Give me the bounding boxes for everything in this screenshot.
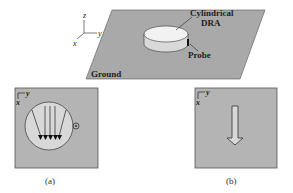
dra-figure: Cylindrical DRA Probe Ground z y x y x (…: [0, 0, 293, 193]
probe-label: Probe: [188, 50, 211, 60]
ground-label: Ground: [91, 69, 121, 79]
cylindrical-dra: [144, 26, 188, 52]
caption-a: (a): [45, 176, 55, 186]
axis-z-label: z: [82, 11, 87, 20]
dra-top-view-circle: [25, 102, 73, 150]
axes-3d: [77, 20, 97, 39]
dra-label-line2: DRA: [201, 18, 221, 28]
axis-y-label: y: [97, 29, 102, 38]
panel-b-axis-y-label: y: [205, 88, 210, 97]
probe: [187, 39, 189, 46]
panel-a-axis-y-label: y: [25, 89, 30, 98]
axis-x-label: x: [72, 39, 77, 48]
panel-b-axis-x-label: x: [195, 98, 200, 107]
panel-a-axis-x-label: x: [15, 98, 20, 107]
caption-b: (b): [226, 176, 237, 186]
dra-label-line1: Cylindrical: [190, 8, 234, 18]
